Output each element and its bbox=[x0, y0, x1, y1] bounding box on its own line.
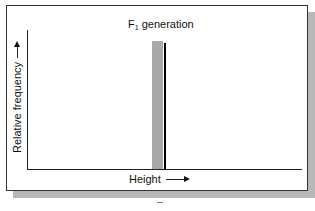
x-axis bbox=[27, 169, 302, 170]
cropped-glyph bbox=[157, 202, 163, 206]
y-axis bbox=[27, 30, 28, 170]
frequency-bar bbox=[152, 41, 163, 169]
y-axis-label: Relative frequency bbox=[11, 43, 23, 153]
arrow-up-icon bbox=[17, 43, 18, 58]
mean-line bbox=[164, 43, 166, 169]
chart-title: F1 generation bbox=[128, 18, 194, 31]
arrow-right-icon bbox=[166, 179, 188, 180]
x-axis-label: Height bbox=[129, 173, 188, 185]
